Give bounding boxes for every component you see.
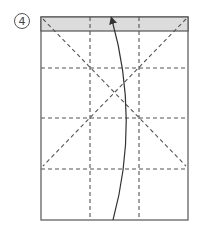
fold-diagram	[0, 0, 199, 233]
